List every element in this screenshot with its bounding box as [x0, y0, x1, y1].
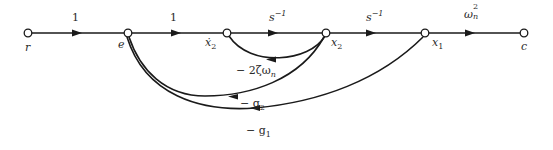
gain-base: ω [464, 8, 473, 21]
node-label-text: c [521, 40, 527, 53]
node-x2dot [223, 29, 231, 37]
arrow-right-icon [268, 30, 278, 37]
arrow-right-icon [72, 30, 82, 37]
gain-label-e-x2dot: 1 [170, 11, 177, 24]
gain-text: − g [246, 124, 266, 137]
edge-x2-e-feedback [129, 37, 324, 96]
node-e [124, 29, 132, 37]
gain-label-r-e: 1 [72, 11, 79, 24]
node-label-text: r [25, 41, 30, 54]
node-label-x1: x1 [432, 36, 443, 51]
node-label-r: r [25, 41, 30, 54]
node-r [24, 29, 32, 37]
node-label-subscript: 2 [211, 42, 216, 51]
gain-label-x2-x1: s−1 [366, 9, 383, 24]
gain-label-x1-e: − g1 [246, 124, 271, 139]
gain-text: 1 [72, 11, 79, 24]
node-label-c: c [521, 40, 527, 53]
gain-label-x1-c: ω2n [464, 8, 479, 21]
node-x2 [322, 29, 330, 37]
node-label-text: e [118, 38, 125, 51]
gain-subscript: 2 [260, 103, 265, 112]
gain-text: − g [240, 97, 260, 110]
node-c [520, 29, 528, 37]
node-x1 [421, 29, 429, 37]
arrow-right-icon [171, 30, 181, 37]
gain-subscript: n [271, 70, 276, 79]
gain-text: 1 [170, 11, 177, 24]
node-label-subscript: 2 [337, 42, 342, 51]
arrow-right-icon [366, 30, 376, 37]
node-label-x2: x2 [331, 36, 342, 51]
gain-label-x2-e: − g2 [240, 97, 265, 112]
gain-exponent: 2 [473, 2, 478, 11]
gain-subscript: 1 [266, 130, 271, 139]
node-label-x2dot: ẋ2 [205, 36, 216, 51]
gain-label-x2-x2dot: − 2ζωn [236, 64, 276, 79]
gain-label-x2dot-x2: s−1 [269, 9, 286, 24]
gain-text: − 2ζω [236, 64, 271, 77]
gain-subscript: n [473, 12, 478, 21]
node-label-subscript: 1 [438, 42, 443, 51]
gain-exponent: −1 [372, 9, 384, 18]
node-label-e: e [118, 38, 125, 51]
arrow-right-icon [465, 30, 475, 37]
gain-exponent: −1 [275, 9, 287, 18]
